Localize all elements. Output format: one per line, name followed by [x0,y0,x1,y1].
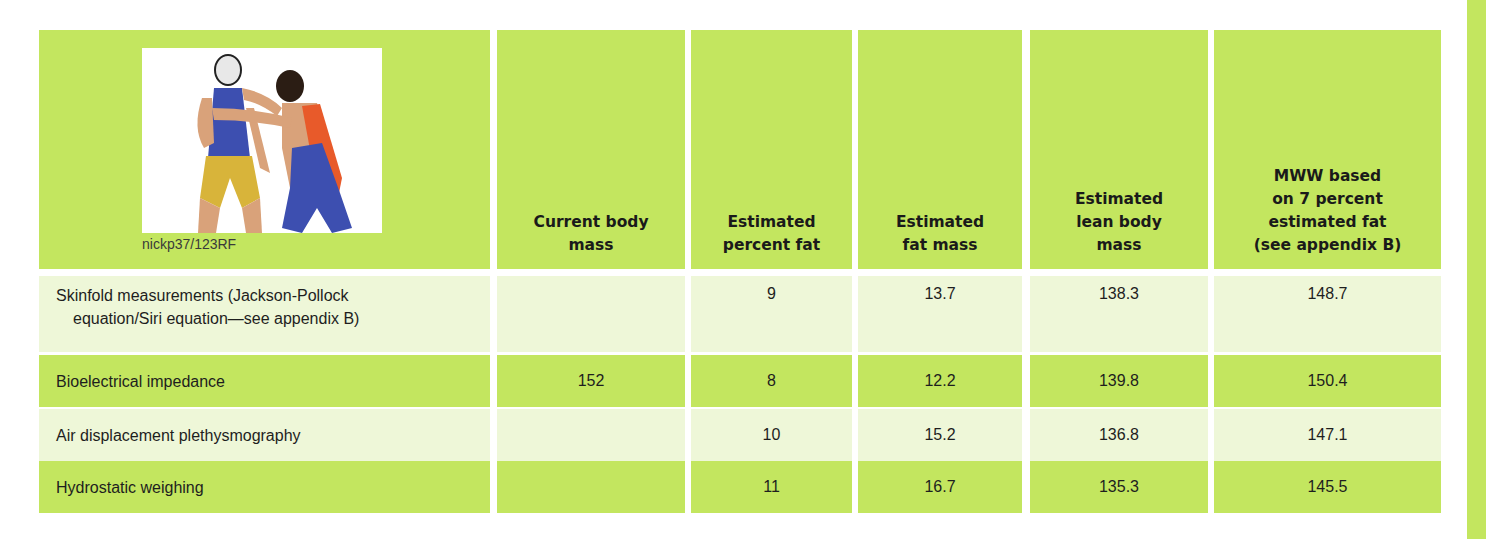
header-line: percent fat [723,234,820,257]
row-hydrostatic-fat-mass: 16.7 [858,461,1022,513]
row-air-displacement-mww: 147.1 [1214,409,1441,461]
row-air-displacement-lean-body-mass: 136.8 [1030,409,1208,461]
page-edge-strip [1467,0,1486,539]
header-line: estimated fat [1254,211,1402,234]
header-estimated-lean-body-mass: Estimated lean body mass [1030,30,1208,269]
row-skinfold-method: Skinfold measurements (Jackson-Pollock e… [39,276,490,352]
row-skinfold-mww: 148.7 [1214,276,1441,352]
header-line: fat mass [896,234,984,257]
row-skinfold-lean-body-mass: 138.3 [1030,276,1208,352]
header-line: on 7 percent [1254,188,1402,211]
row-air-displacement-current-body-mass [497,409,685,461]
method-line: equation/Siri equation—see appendix B) [56,307,490,330]
row-hydrostatic-current-body-mass [497,461,685,513]
header-line: MWW based [1254,165,1402,188]
row-bioelectrical-lean-body-mass: 139.8 [1030,355,1208,407]
row-skinfold-fat-mass: 13.7 [858,276,1022,352]
header-line: Estimated [896,211,984,234]
header-estimated-fat-mass: Estimated fat mass [858,30,1022,269]
row-air-displacement-method: Air displacement plethysmography [39,409,490,461]
row-skinfold-percent-fat: 9 [691,276,852,352]
header-line: lean body [1075,211,1163,234]
header-line: mass [1075,234,1163,257]
wrestlers-photo [142,48,382,233]
wrestlers-image-icon [142,48,382,233]
header-line: Estimated [1075,188,1163,211]
header-line: Estimated [723,211,820,234]
row-bioelectrical-fat-mass: 12.2 [858,355,1022,407]
row-bioelectrical-current-body-mass: 152 [497,355,685,407]
row-bioelectrical-percent-fat: 8 [691,355,852,407]
row-hydrostatic-mww: 145.5 [1214,461,1441,513]
row-air-displacement-percent-fat: 10 [691,409,852,461]
row-hydrostatic-percent-fat: 11 [691,461,852,513]
header-mww: MWW based on 7 percent estimated fat (se… [1214,30,1441,269]
header-line: mass [534,234,649,257]
photo-credit: nickp37/123RF [142,236,236,252]
row-bioelectrical-method: Bioelectrical impedance [39,355,490,407]
row-hydrostatic-lean-body-mass: 135.3 [1030,461,1208,513]
method-line: Skinfold measurements (Jackson-Pollock [56,284,490,307]
row-air-displacement-fat-mass: 15.2 [858,409,1022,461]
header-line: (see appendix B) [1254,234,1402,257]
header-current-body-mass: Current body mass [497,30,685,269]
row-skinfold-current-body-mass [497,276,685,352]
row-bioelectrical-mww: 150.4 [1214,355,1441,407]
row-hydrostatic-method: Hydrostatic weighing [39,461,490,513]
header-line: Current body [534,211,649,234]
header-photo-cell: nickp37/123RF [39,30,490,269]
header-estimated-percent-fat: Estimated percent fat [691,30,852,269]
